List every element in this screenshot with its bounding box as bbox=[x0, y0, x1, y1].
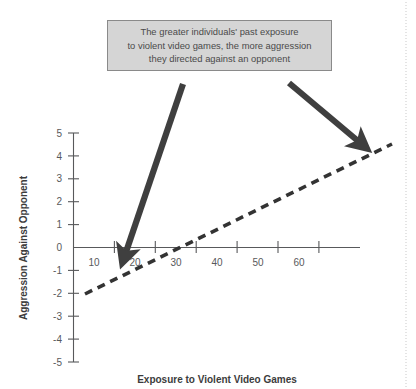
x-axis-title: Exposure to Violent Video Games bbox=[137, 374, 297, 385]
y-tick-label: 5 bbox=[56, 128, 62, 139]
trend-line bbox=[85, 144, 392, 294]
y-tick-label: -1 bbox=[53, 265, 62, 276]
x-tick-label: 40 bbox=[211, 257, 223, 268]
y-tick-label: 2 bbox=[56, 196, 62, 207]
y-tick-label: -4 bbox=[53, 334, 62, 345]
callout-line-1: The greater individuals' past exposure bbox=[140, 26, 298, 37]
y-tick-label: -3 bbox=[53, 311, 62, 322]
x-tick-labels: 10 20 30 40 50 60 bbox=[88, 257, 305, 268]
arrow-left bbox=[126, 84, 183, 252]
x-tick-label: 50 bbox=[252, 257, 264, 268]
figure-panel: 5 4 3 2 1 0 -1 -2 -3 -4 -5 10 20 30 40 5… bbox=[0, 0, 416, 389]
y-axis-title: Aggression Against Opponent bbox=[18, 175, 29, 320]
y-tick-label: -5 bbox=[53, 357, 62, 368]
y-tick-label: -2 bbox=[53, 288, 62, 299]
x-tick-label: 10 bbox=[88, 257, 100, 268]
y-tick-label: 3 bbox=[56, 173, 62, 184]
arrow-right bbox=[289, 83, 358, 141]
y-tick-labels: 5 4 3 2 1 0 -1 -2 -3 -4 -5 bbox=[53, 128, 62, 368]
callout-line-2: to violent video games, the more aggress… bbox=[128, 40, 312, 51]
y-tick-label: 0 bbox=[56, 242, 62, 253]
x-tick-label: 30 bbox=[170, 257, 182, 268]
callout-line-3: they directed against an opponent bbox=[149, 53, 291, 64]
chart-canvas: 5 4 3 2 1 0 -1 -2 -3 -4 -5 10 20 30 40 5… bbox=[0, 0, 416, 389]
y-tick-label: 1 bbox=[56, 219, 62, 230]
x-tick-label: 60 bbox=[293, 257, 305, 268]
y-tick-label: 4 bbox=[56, 151, 62, 162]
